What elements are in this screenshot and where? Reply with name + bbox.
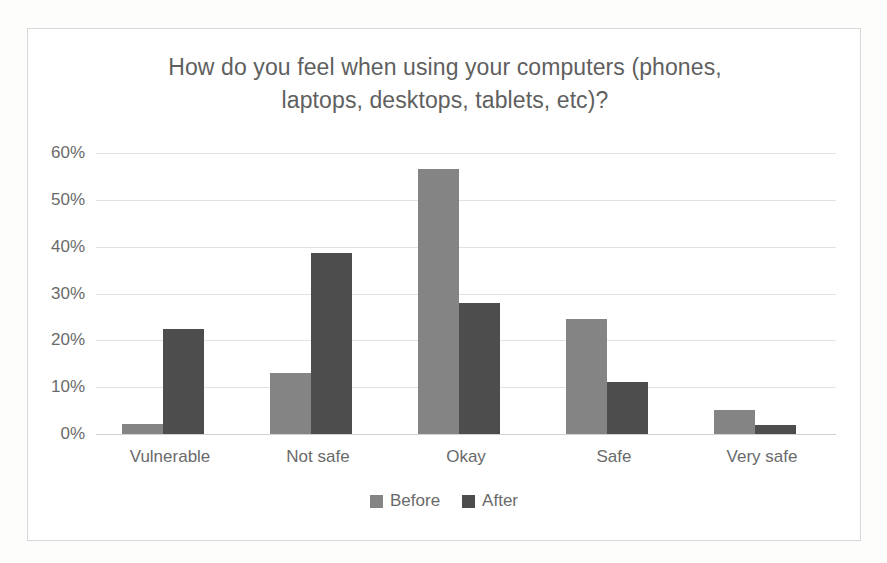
bar-before (714, 410, 755, 434)
x-tick-label: Not safe (244, 447, 392, 467)
y-tick-label: 50% (51, 190, 85, 210)
legend-item-after[interactable]: After (462, 491, 518, 511)
bar-before (566, 319, 607, 434)
y-tick-label: 40% (51, 237, 85, 257)
chart-legend: BeforeAfter (28, 491, 860, 511)
plot-area: 60%50%40%30%20%10%0% VulnerableNot safeO… (96, 153, 836, 434)
chart-page: How do you feel when using your computer… (0, 0, 887, 563)
chart-title-line-2: laptops, desktops, tablets, etc)? (88, 84, 802, 117)
chart-title: How do you feel when using your computer… (88, 51, 802, 117)
bar-after (459, 303, 500, 434)
bar-after (163, 329, 204, 434)
legend-label: Before (390, 491, 440, 511)
x-tick-label: Vulnerable (96, 447, 244, 467)
bar-groups (96, 153, 836, 434)
x-tick-label: Okay (392, 447, 540, 467)
bar-before (122, 424, 163, 434)
bar-group (392, 153, 540, 434)
chart-title-line-1: How do you feel when using your computer… (88, 51, 802, 84)
legend-swatch-icon (462, 495, 475, 508)
y-tick-label: 10% (51, 377, 85, 397)
gridline-0 (96, 434, 836, 435)
y-tick-label: 60% (51, 143, 85, 163)
y-tick-label: 30% (51, 284, 85, 304)
x-tick-label: Safe (540, 447, 688, 467)
bar-group (244, 153, 392, 434)
legend-swatch-icon (370, 495, 383, 508)
bar-group (688, 153, 836, 434)
bar-after (311, 253, 352, 434)
chart-frame: How do you feel when using your computer… (27, 28, 861, 541)
bar-before (270, 373, 311, 434)
bar-after (755, 425, 796, 434)
y-tick-label: 0% (60, 424, 85, 444)
bar-group (540, 153, 688, 434)
legend-label: After (482, 491, 518, 511)
y-tick-label: 20% (51, 330, 85, 350)
bar-after (607, 382, 648, 434)
legend-item-before[interactable]: Before (370, 491, 440, 511)
bar-group (96, 153, 244, 434)
x-tick-label: Very safe (688, 447, 836, 467)
bar-before (418, 169, 459, 434)
